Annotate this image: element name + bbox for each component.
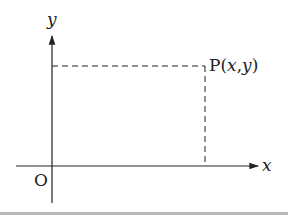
point-label-open: P( [209, 55, 227, 75]
coordinate-diagram: y x O P(x,y) [0, 0, 288, 216]
bottom-divider [0, 212, 288, 215]
point-label: P(x,y) [209, 55, 258, 75]
origin-label: O [34, 170, 48, 190]
point-label-y: y [241, 55, 252, 75]
x-axis-label: x [262, 155, 272, 175]
point-label-x: x [227, 55, 237, 75]
y-axis-label: y [46, 9, 57, 29]
point-label-close: ) [252, 55, 259, 75]
